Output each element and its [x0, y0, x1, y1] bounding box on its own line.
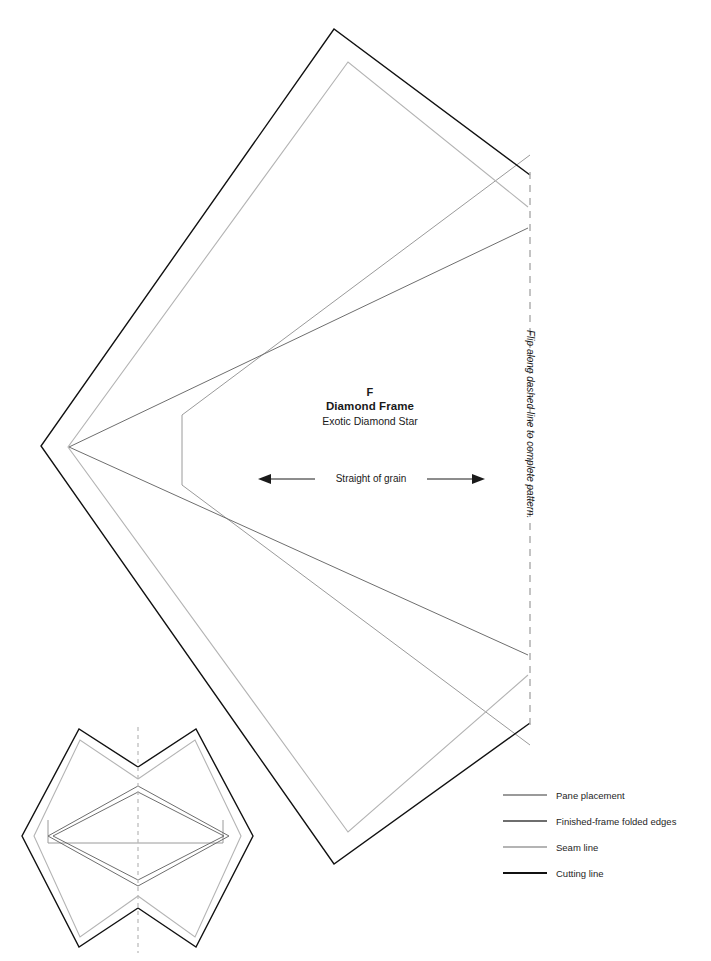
thumbnail-seam-line-right	[138, 740, 241, 937]
straight-of-grain-label: Straight of grain	[315, 471, 427, 486]
legend: Pane placement Finished-frame folded edg…	[503, 782, 703, 886]
legend-item-pane-placement: Pane placement	[503, 782, 703, 808]
thumbnail-pane-placement-line	[48, 820, 223, 843]
legend-item-seam-line: Seam line	[503, 834, 703, 860]
template-cutting-line	[41, 29, 530, 864]
template-piece-f	[41, 29, 530, 864]
legend-label-seam-line: Seam line	[556, 842, 598, 853]
legend-label-folded-edges: Finished-frame folded edges	[556, 816, 676, 827]
thumbnail-seam-line-left	[34, 740, 138, 937]
block-name: Exotic Diamond Star	[260, 414, 480, 429]
template-seam-line	[68, 62, 528, 832]
legend-item-cutting-line: Cutting line	[503, 860, 703, 886]
thumbnail-complete-pattern	[22, 727, 253, 953]
legend-label-cutting-line: Cutting line	[556, 868, 604, 879]
piece-name: Diamond Frame	[260, 399, 480, 414]
legend-swatch-pane-placement	[503, 794, 547, 796]
template-folded-edges-line	[69, 228, 528, 655]
piece-labels: F Diamond Frame Exotic Diamond Star	[260, 385, 480, 429]
template-pane-placement-line	[182, 155, 530, 745]
pattern-sheet: F Diamond Frame Exotic Diamond Star Stra…	[0, 0, 711, 961]
legend-swatch-seam-line	[503, 846, 547, 848]
fold-instruction-note: Flip along dashed line to complete patte…	[524, 330, 536, 560]
thumbnail-cutting-line-left	[22, 729, 138, 947]
legend-swatch-cutting-line	[503, 872, 547, 875]
piece-letter: F	[260, 385, 480, 399]
legend-label-pane-placement: Pane placement	[556, 790, 625, 801]
legend-swatch-folded-edges	[503, 820, 547, 822]
legend-item-folded-edges: Finished-frame folded edges	[503, 808, 703, 834]
thumbnail-cutting-line-right	[138, 729, 253, 947]
